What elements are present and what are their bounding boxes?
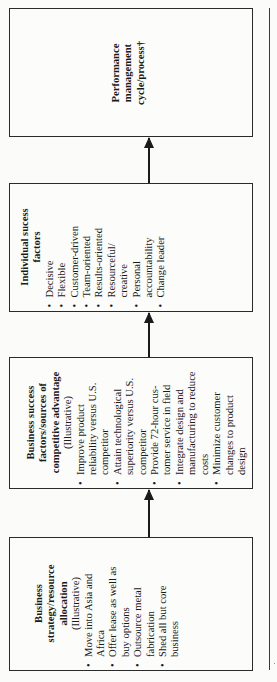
box-title: Individual sucess factors: [18, 185, 43, 308]
list-item: Offer lease as well as buy options: [107, 550, 132, 668]
title-line: factors/sources of: [37, 359, 49, 486]
list-item: Customer-driven: [68, 185, 80, 308]
flow-arrow: [148, 490, 150, 537]
title-line: management: [121, 8, 133, 137]
title-line: allocation: [58, 539, 70, 668]
list-item: Outsource metal fabrication: [132, 550, 157, 668]
title-line: factors: [30, 185, 42, 308]
list-item: Attain technological superiority versus …: [112, 368, 149, 486]
arrowhead-icon: [144, 137, 154, 148]
list-item: Resourceful/ creative: [105, 227, 130, 308]
list-item: Team-oriented: [80, 185, 92, 308]
box-title: Performance management cycle/process†: [109, 8, 146, 137]
box-subtitle: (Illustrative): [62, 359, 74, 486]
arrowhead-icon: [144, 489, 154, 500]
flow-arrow: [148, 138, 150, 183]
title-line: Business: [33, 539, 45, 668]
box-title: Business strategy/resource allocation: [33, 539, 70, 668]
arrowhead-icon: [144, 312, 154, 323]
list-item: Decisive: [43, 185, 55, 308]
strategy-list: Move into Asia and Africa Offer lease as…: [83, 550, 182, 668]
title-line: Business success: [25, 359, 37, 486]
list-item: Shed all but core business: [157, 550, 182, 668]
list-item: Minimize customer changes to product des…: [211, 368, 248, 486]
performance-management-box: Performance management cycle/process†: [9, 8, 253, 137]
list-item: Personal accountability: [130, 217, 155, 308]
title-line: Individual sucess: [18, 185, 30, 308]
right-border-line: [269, 8, 270, 670]
list-item: Flexible: [55, 185, 67, 308]
box-subtitle: (Illustrative): [70, 539, 82, 668]
box-title: Business success factors/sources of comp…: [25, 359, 62, 486]
list-item: Integrate design and manufacturing to re…: [174, 368, 211, 486]
list-item: Change leader: [154, 185, 166, 308]
title-line: competitive advantage: [50, 359, 62, 486]
business-success-factors-box: Business success factors/sources of comp…: [9, 357, 253, 489]
list-item: Improve product reliability versus U.S. …: [75, 368, 112, 486]
success-factor-list: Improve product reliability versus U.S. …: [75, 368, 249, 486]
flow-arrow: [148, 313, 150, 357]
factor-list: Decisive Flexible Customer-driven Team-o…: [43, 185, 167, 308]
list-item: Move into Asia and Africa: [83, 550, 108, 668]
list-item: Results-oriented: [92, 185, 104, 308]
footnote-mark: [274, 663, 275, 664]
business-strategy-box: Business strategy/resource allocation (I…: [9, 537, 253, 671]
individual-success-factors-box: Individual sucess factors Decisive Flexi…: [9, 183, 253, 312]
title-line: strategy/resource: [45, 539, 57, 668]
title-line: Performance: [109, 8, 121, 137]
title-line: cycle/process†: [134, 8, 146, 137]
list-item: Provide 72-hour cus- tomer service in fi…: [149, 368, 174, 486]
